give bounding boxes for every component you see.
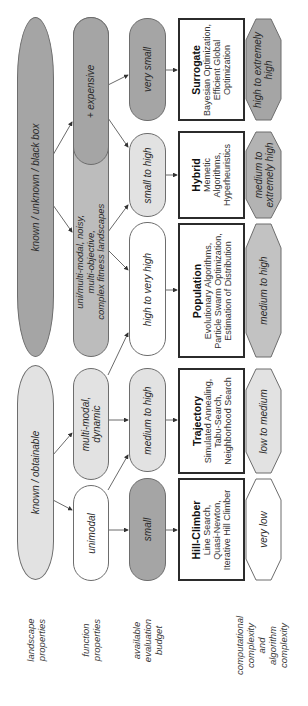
budget-very-small: very small [129,18,166,121]
row-label-complexity-line-5: complexity [279,615,290,674]
hybrid-line-2: Algorithms, [213,144,223,206]
row-label-complexity-line-2: complexity [246,615,257,674]
budget-medium-to-high-label: medium to high [142,386,153,454]
complexity-surrogate: high to extremely high [245,18,282,121]
budget-high-to-very-high: high to very high [129,222,166,356]
complexity-population: medium to high [245,223,282,358]
algorithm-trajectory: Trajectory Simulated Annealing, Tabu-Sea… [178,368,245,474]
complexity-trajectory-label: low to medium [258,389,269,453]
trajectory-line-3: Neighborhood Search [223,377,233,465]
population-line-2: Particle Swarm Optimization, [213,233,223,349]
budget-small-to-high: small to high [129,133,166,217]
row-label-complexity-line-1: computational [235,615,246,674]
multimodal-line-1: multi-modal, [80,397,91,451]
complexity-trajectory: low to medium [245,368,282,474]
budget-medium-to-high: medium to high [129,368,166,472]
trajectory-line-1: Simulated Annealing, [203,377,213,465]
population-text: Population Evolutionary Algorithms, Part… [191,233,233,349]
hillclimber-line-2: Quasi-Newton, [213,489,223,570]
hybrid-title: Hybrid [191,144,203,206]
row-label-budget-text: available evaluation budget [131,618,164,661]
function-multimodal: multi-modal, dynamic [73,368,109,480]
budget-very-small-label: very small [142,47,153,92]
hillclimber-line-1: Line Search, [203,489,213,570]
row-label-budget-line-1: available [131,618,142,661]
row-label-landscape-line-2: properties [36,618,47,661]
function-multimodal-label: multi-modal, dynamic [80,397,102,451]
budget-high-to-very-high-label: high to very high [142,252,153,325]
hillclimber-title: Hill-Climber [191,489,203,570]
complexity-hybrid: medium to extremely high [245,131,282,219]
function-expensive-label: + expensive [86,64,97,118]
surrogate-title: Surrogate [191,23,203,115]
surrogate-text: Surrogate Bayesian Optimization, Efficie… [191,23,233,115]
population-line-1: Evolutionary Algorithms, [203,233,213,349]
row-label-complexity: computational complexity and algorithm c… [232,595,292,695]
complexity-hybrid-line-1: medium to [253,142,264,207]
complexity-hillclimber-line-1: very low [258,511,269,548]
algorithm-hill-climber: Hill-Climber Line Search, Quasi-Newton, … [178,478,245,581]
row-label-complexity-line-4: algorithm [268,615,279,674]
complexity-hill-climber: very low [245,478,282,581]
complex-line-3: complex fitness landscapes [96,204,107,320]
complexity-surrogate-line-2: high [264,31,275,107]
row-label-budget-line-3: budget [153,618,164,661]
function-unimodal-label: unimodal [86,513,97,554]
complexity-trajectory-line-1: low to medium [258,389,269,453]
complexity-surrogate-label: high to extremely high [253,31,275,107]
population-line-3: Estimation of Distribution [223,233,233,349]
trajectory-line-2: Tabu-Search, [213,377,223,465]
surrogate-line-2: Efficient Global [213,23,223,115]
row-label-complexity-text: computational complexity and algorithm c… [235,615,290,674]
complex-line-1: uni/multi-modal, noisy, [75,204,86,320]
hybrid-line-3: Hyperheuristics [223,144,233,206]
row-label-function-line-1: function [80,619,91,661]
complexity-hybrid-label: medium to extremely high [253,142,275,207]
budget-small-label: small [142,518,153,541]
trajectory-title: Trajectory [191,377,203,465]
row-label-budget: available evaluation budget [129,600,166,680]
population-title: Population [191,233,203,349]
row-label-landscape-text: landscape properties [25,618,47,661]
landscape-black-box: known / unknown / black box [17,17,54,357]
complexity-population-line-1: medium to high [258,256,269,324]
algorithm-hybrid: Hybrid Memetic Algorithms, Hyperheuristi… [178,131,245,219]
trajectory-text: Trajectory Simulated Annealing, Tabu-Sea… [191,377,233,465]
row-label-function: function properties [73,600,109,680]
surrogate-line-3: Optimization [223,23,233,115]
function-unimodal: unimodal [73,485,109,581]
hillclimber-line-3: Iterative Hill Climber [223,489,233,570]
row-label-budget-line-2: evaluation [142,618,153,661]
hillclimber-text: Hill-Climber Line Search, Quasi-Newton, … [191,489,233,570]
row-label-landscape: landscape properties [17,600,54,680]
function-expensive: + expensive [73,17,109,165]
row-label-complexity-line-3: and [257,615,268,674]
landscape-obtainable-label: known / obtainable [30,431,41,514]
complexity-hybrid-line-2: extremely high [264,142,275,207]
function-complex-label: uni/multi-modal, noisy, multi-objective,… [75,204,107,320]
hybrid-text: Hybrid Memetic Algorithms, Hyperheuristi… [191,144,233,206]
complexity-hillclimber-label: very low [258,511,269,548]
row-label-landscape-line-1: landscape [25,618,36,661]
complexity-population-label: medium to high [258,256,269,324]
multimodal-line-2: dynamic [91,397,102,451]
landscape-obtainable: known / obtainable [17,365,54,580]
hybrid-line-1: Memetic [203,144,213,206]
budget-small: small [129,478,166,581]
row-label-function-text: function properties [80,619,102,661]
complexity-surrogate-line-1: high to extremely [253,31,264,107]
row-label-function-line-2: properties [91,619,102,661]
algorithm-surrogate: Surrogate Bayesian Optimization, Efficie… [178,18,245,121]
budget-small-to-high-label: small to high [142,147,153,203]
surrogate-line-1: Bayesian Optimization, [203,23,213,115]
landscape-black-box-label: known / unknown / black box [30,123,41,251]
algorithm-population: Population Evolutionary Algorithms, Part… [178,223,245,358]
